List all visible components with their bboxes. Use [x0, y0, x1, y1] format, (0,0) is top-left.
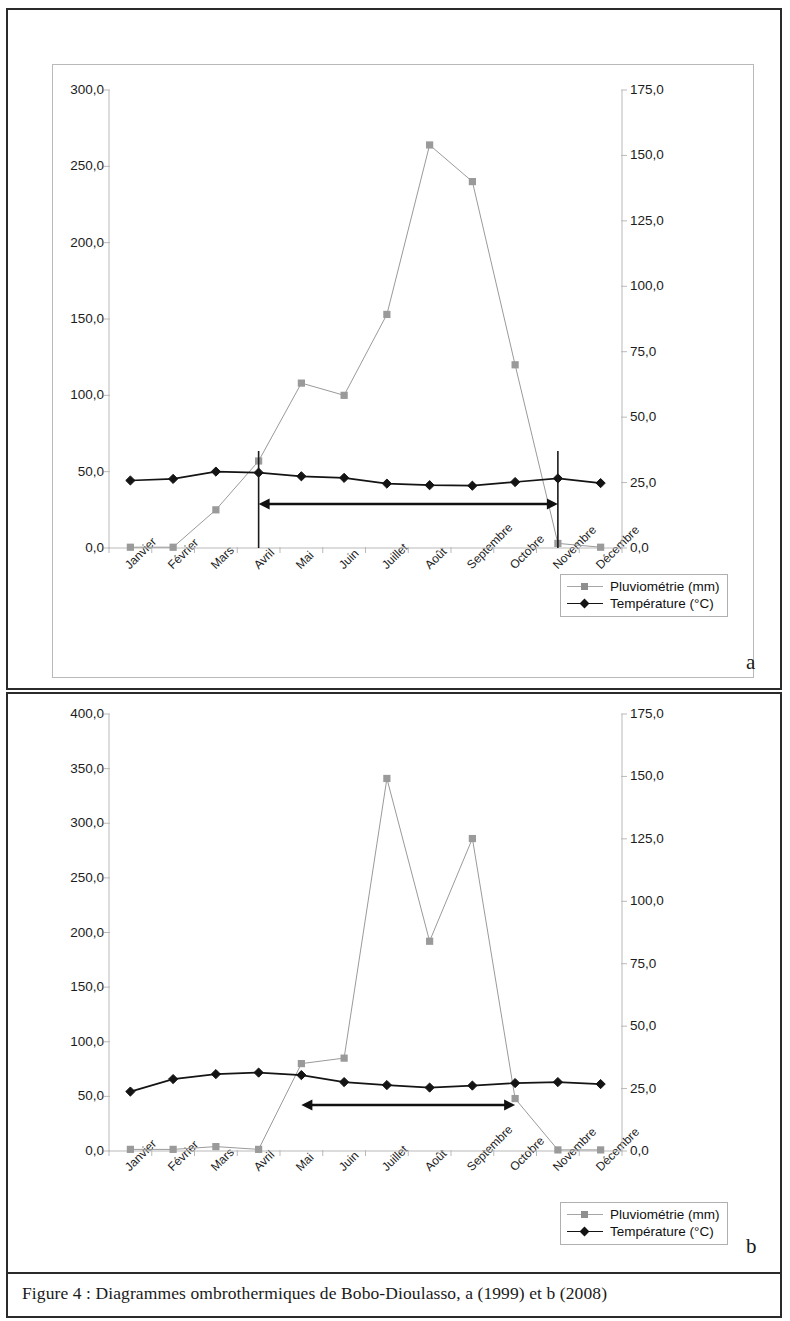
legend-b: Pluviométrie (mm) Température (°C) [560, 1202, 728, 1245]
panel-letter-b: b [746, 1234, 757, 1259]
plot-area-b [8, 694, 780, 1272]
figure-page: 0,050,0100,0150,0200,0250,0300,00,025,05… [0, 0, 790, 1321]
panel-b: 0,050,0100,0150,0200,0250,0300,0350,0400… [6, 692, 782, 1274]
legend-row-temp: Température (°C) [567, 1223, 720, 1240]
caption-box: Figure 4 : Diagrammes ombrothermiques de… [6, 1272, 782, 1318]
temp-marker-icon [567, 598, 603, 609]
panel-letter-a: a [746, 650, 755, 675]
legend-a: Pluviométrie (mm) Température (°C) [560, 574, 728, 617]
legend-row-rain: Pluviométrie (mm) [567, 1206, 720, 1223]
legend-label-rain: Pluviométrie (mm) [610, 579, 720, 594]
rain-marker-icon [567, 1209, 603, 1220]
figure-caption: Figure 4 : Diagrammes ombrothermiques de… [22, 1283, 772, 1304]
legend-label-temp: Température (°C) [610, 1224, 714, 1239]
legend-label-rain: Pluviométrie (mm) [610, 1207, 720, 1222]
panel-a: 0,050,0100,0150,0200,0250,0300,00,025,05… [6, 8, 782, 690]
temp-marker-icon [567, 1226, 603, 1237]
rain-marker-icon [567, 581, 603, 592]
legend-row-temp: Température (°C) [567, 595, 720, 612]
legend-label-temp: Température (°C) [610, 596, 714, 611]
legend-row-rain: Pluviométrie (mm) [567, 578, 720, 595]
